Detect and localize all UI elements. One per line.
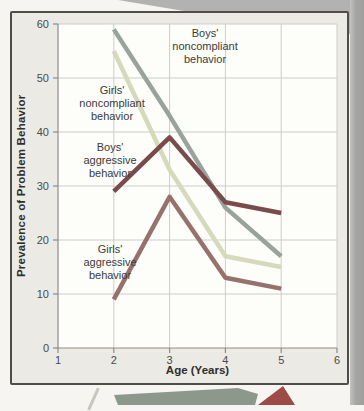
figure-panel: 0102030405060123456 Prevalence of Proble… — [10, 11, 349, 385]
x-axis-title: Age (Years) — [58, 364, 337, 376]
decorative-triangle — [255, 385, 300, 405]
y-tick-label: 30 — [37, 180, 49, 192]
y-tick-label: 50 — [37, 72, 49, 84]
decorative-diagonal-line — [87, 387, 100, 410]
y-tick-label: 0 — [43, 342, 49, 354]
page-edge-shadow-right — [350, 0, 364, 405]
series-label-boys-aggressive: Boys' aggressive behavior — [60, 141, 160, 180]
y-axis-title: Prevalence of Problem Behavior — [15, 24, 27, 348]
y-tick-label: 40 — [37, 126, 49, 138]
series-label-boys-noncompliant: Boys' noncompliant behavior — [150, 27, 260, 66]
line-chart: 0102030405060123456 — [12, 13, 347, 383]
y-tick-label: 60 — [37, 18, 49, 30]
y-tick-label: 20 — [37, 234, 49, 246]
y-tick-label: 10 — [37, 288, 49, 300]
series-label-girls-aggressive: Girls' aggressive behavior — [60, 243, 160, 282]
series-label-girls-noncompliant: Girls' noncompliant behavior — [62, 84, 162, 123]
decorative-arrow-shape — [90, 386, 260, 405]
